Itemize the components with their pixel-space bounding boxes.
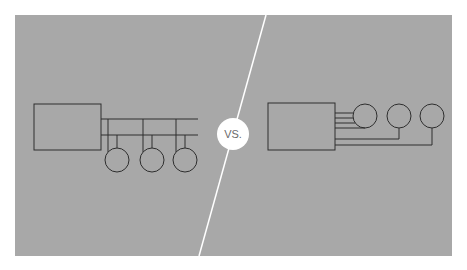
comparison-diagram — [0, 0, 467, 270]
vs-badge — [217, 118, 249, 150]
